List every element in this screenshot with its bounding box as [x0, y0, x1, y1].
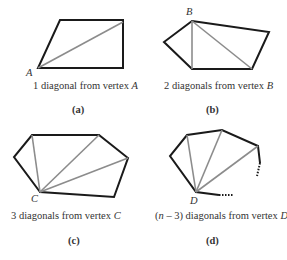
caption-d: (n – 3) diagonals from vertex D [155, 210, 287, 221]
sub-label-c: (c) [68, 235, 80, 246]
dotted-continuation [257, 163, 260, 176]
hexagon-c [14, 135, 128, 197]
vertex-label-c: C [31, 193, 38, 204]
diagonal-line [38, 22, 123, 68]
diagonal-line [40, 158, 128, 192]
pentagon-b [164, 21, 269, 69]
vertex-label-b: B [186, 6, 192, 17]
vertex-label-d: D [190, 195, 198, 206]
vertex-label-a: A [26, 67, 32, 78]
ngon-d [170, 130, 260, 195]
diagram-canvas [0, 0, 287, 260]
sub-label-d: (d) [206, 235, 219, 246]
caption-c: 3 diagonals from vertex C [11, 210, 121, 221]
quadrilateral-a [38, 20, 123, 68]
diagonal-line [187, 135, 196, 192]
sub-label-a: (a) [72, 104, 84, 115]
caption-a: 1 diagonal from vertex A [33, 80, 138, 91]
diagonal-line [40, 135, 99, 192]
caption-b: 2 diagonals from vertex B [164, 80, 273, 91]
sub-label-b: (b) [206, 104, 219, 115]
